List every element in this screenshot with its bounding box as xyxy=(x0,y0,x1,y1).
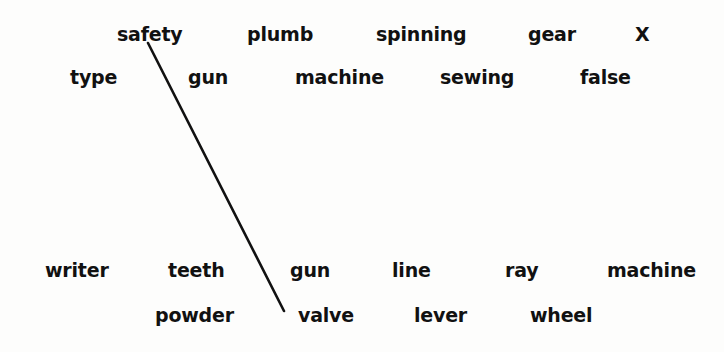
word-lever: lever xyxy=(414,306,467,325)
word-writer: writer xyxy=(45,261,109,280)
word-valve: valve xyxy=(298,306,354,325)
word-false: false xyxy=(580,68,631,87)
word-machine: machine xyxy=(295,68,384,87)
word-safety: safety xyxy=(117,25,183,44)
stroke-layer xyxy=(0,0,724,352)
word-plumb: plumb xyxy=(247,25,313,44)
word-gear: gear xyxy=(528,25,576,44)
word-gun: gun xyxy=(290,261,330,280)
word-machine: machine xyxy=(607,261,696,280)
word-type: type xyxy=(70,68,117,87)
word-grid-canvas: safetyplumbspinninggearXtypegunmachinese… xyxy=(0,0,724,352)
word-ray: ray xyxy=(505,261,538,280)
word-x: X xyxy=(635,25,650,44)
word-teeth: teeth xyxy=(168,261,224,280)
word-gun: gun xyxy=(188,68,228,87)
word-line: line xyxy=(392,261,431,280)
word-spinning: spinning xyxy=(376,25,467,44)
word-powder: powder xyxy=(155,306,234,325)
word-wheel: wheel xyxy=(530,306,592,325)
word-sewing: sewing xyxy=(440,68,514,87)
